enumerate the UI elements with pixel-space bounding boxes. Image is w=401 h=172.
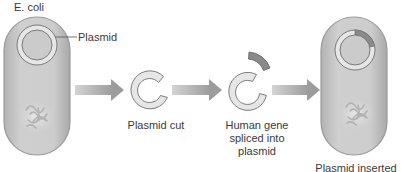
human-gene-segment — [249, 52, 271, 71]
arrow-3-icon — [272, 79, 320, 101]
plasmid-cut-label: Plasmid cut — [116, 119, 196, 132]
plasmid-ring — [17, 25, 57, 65]
ecoli-cell-recombinant — [321, 17, 387, 155]
ecoli-cell-original — [4, 17, 77, 155]
ecoli-label: E. coli — [14, 1, 44, 14]
gene-spliced-label-line-2: spliced into — [212, 132, 302, 145]
gene-spliced-label-line-3: plasmid — [212, 145, 302, 158]
plasmid-cut-icon — [131, 71, 167, 109]
arrow-2-icon — [172, 79, 222, 101]
nucleoid-dna-icon — [16, 99, 56, 135]
arrow-1-icon — [75, 79, 124, 101]
recombinant-plasmid-ring — [335, 30, 375, 70]
plasmid-with-gene-icon — [229, 52, 270, 110]
plasmid-label: Plasmid — [78, 31, 117, 44]
nucleoid-dna-icon — [336, 96, 376, 132]
gene-spliced-label: Human gene spliced into plasmid — [212, 119, 302, 158]
recombinant-dna-diagram — [0, 0, 401, 172]
gene-spliced-label-line-1: Human gene — [212, 119, 302, 132]
plasmid-inserted-label: Plasmid inserted — [308, 162, 401, 172]
